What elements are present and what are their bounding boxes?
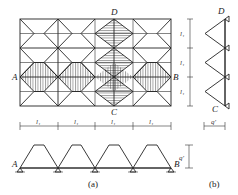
row-label-3: l₁ (180, 88, 184, 96)
label-b: B (173, 72, 179, 82)
beam-ab-load: A B q′ (11, 145, 193, 172)
span-dimension: l₁ l₁ l₁ l₁ (20, 118, 171, 130)
label-c: C (111, 107, 118, 117)
caption-a: (a) (88, 179, 98, 189)
yield-lines (20, 19, 171, 106)
label-d: D (110, 7, 118, 17)
beam-cd-load: D C q′ (204, 6, 229, 130)
label-a: A (11, 72, 18, 82)
span-label-4: l₁ (149, 118, 153, 126)
load-label-b: q′ (211, 118, 217, 126)
span-label-3: l₁ (111, 118, 115, 126)
load-label-a: q′ (179, 154, 185, 162)
span-label-1: l₁ (36, 118, 40, 126)
caption-b: (b) (209, 179, 220, 189)
row-dimension: l₁ l₁ l₁ (180, 19, 193, 106)
label-b-c: C (212, 104, 219, 114)
row-label-2: l₁ (180, 59, 184, 67)
label-b-d: D (217, 6, 225, 16)
slab-plan: A B C D (11, 7, 179, 117)
beam-supports (15, 168, 176, 172)
beam-cd-supports (225, 16, 229, 109)
slab-load-diagram: A B C D l₁ l₁ l₁ l₁ l₁ l₁ l₁ (0, 0, 238, 195)
span-label-2: l₁ (74, 118, 78, 126)
beam-label-a: A (11, 159, 18, 169)
row-label-1: l₁ (180, 30, 184, 38)
